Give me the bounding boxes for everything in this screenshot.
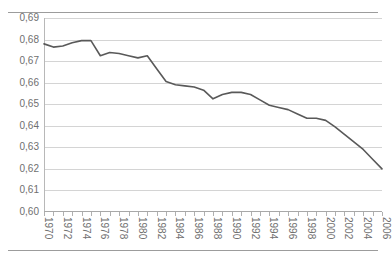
x-axis-tick [307, 212, 308, 216]
x-axis-tick-label: 1972 [62, 217, 72, 239]
x-axis-tick [222, 212, 223, 216]
y-axis-tick-label: 0,67 [20, 56, 39, 66]
x-axis-tick-label: 1978 [118, 217, 128, 239]
x-axis-tick [147, 212, 148, 216]
x-axis-tick [335, 212, 336, 216]
x-axis-tick [279, 212, 280, 216]
x-axis-tick-label: 1986 [193, 217, 203, 239]
x-axis-tick [129, 212, 130, 216]
x-axis-tick [185, 212, 186, 216]
line-chart: 0,690,680,670,660,650,640,630,620,610,60… [0, 18, 386, 248]
series-polyline [44, 41, 382, 169]
x-axis-tick [72, 212, 73, 216]
y-axis-labels: 0,690,680,670,660,650,640,630,620,610,60 [0, 18, 42, 212]
x-axis-tick-label: 1974 [81, 217, 91, 239]
x-axis-tick-label: 1984 [174, 217, 184, 239]
x-axis-tick [241, 212, 242, 216]
cropped-header-strip: ' ' ' ' ' ' ' ' ' [44, 0, 164, 8]
x-axis-tick-label: 1988 [212, 217, 222, 239]
x-axis-tick-label: 2002 [343, 217, 353, 239]
x-axis-tick [260, 212, 261, 216]
data-series-line [44, 18, 382, 212]
x-axis-tick [316, 212, 317, 216]
x-axis-tick [354, 212, 355, 216]
y-axis-tick-label: 0,69 [20, 13, 39, 23]
x-axis-tick [326, 212, 327, 216]
x-axis-tick-label: 1976 [99, 217, 109, 239]
x-axis-tick [194, 212, 195, 216]
x-axis-tick [344, 212, 345, 216]
x-axis-tick [119, 212, 120, 216]
x-axis-tick-label: 1992 [250, 217, 260, 239]
x-axis-tick [110, 212, 111, 216]
y-axis-tick-label: 0,61 [20, 185, 39, 195]
x-axis-tick [138, 212, 139, 216]
plot-area [44, 18, 382, 212]
x-axis-tick [288, 212, 289, 216]
x-axis-tick [269, 212, 270, 216]
x-axis-tick [382, 212, 383, 216]
x-axis-tick [251, 212, 252, 216]
x-axis-tick-label: 1994 [268, 217, 278, 239]
x-axis-tick [91, 212, 92, 216]
x-axis-tick-label: 2004 [362, 217, 372, 239]
x-axis-tick-label: 1990 [231, 217, 241, 239]
x-axis-tick [44, 212, 45, 216]
x-axis-labels: 1970197219741976197819801982198419861988… [44, 217, 382, 265]
x-axis-tick-label: 1980 [137, 217, 147, 239]
x-axis-tick [298, 212, 299, 216]
x-axis-tick-label: 1982 [156, 217, 166, 239]
x-axis-tick [363, 212, 364, 216]
y-axis-tick-label: 0,66 [20, 78, 39, 88]
x-axis-tick [166, 212, 167, 216]
x-axis-tick-label: 1996 [287, 217, 297, 239]
x-axis-tick [175, 212, 176, 216]
x-axis-tick [100, 212, 101, 216]
x-axis-tick-label: 1998 [306, 217, 316, 239]
top-divider-rule [8, 12, 378, 13]
x-axis-tick [213, 212, 214, 216]
x-axis-tick [63, 212, 64, 216]
x-axis-tick [157, 212, 158, 216]
x-axis-tick [53, 212, 54, 216]
x-axis-tick [232, 212, 233, 216]
x-axis-tick [82, 212, 83, 216]
x-axis-tick-label: 2000 [325, 217, 335, 239]
y-axis-tick-label: 0,68 [20, 35, 39, 45]
y-axis-tick-label: 0,60 [20, 207, 39, 217]
y-axis-tick-label: 0,64 [20, 121, 39, 131]
x-axis-tick-label: 1970 [43, 217, 53, 239]
x-axis-tick-label: 2006 [381, 217, 391, 239]
x-axis-tick [373, 212, 374, 216]
cropped-header-text: ' ' ' ' ' ' ' ' ' [44, 0, 147, 2]
x-axis-tick [204, 212, 205, 216]
y-axis-tick-label: 0,65 [20, 99, 39, 109]
y-axis-tick-label: 0,62 [20, 164, 39, 174]
y-axis-tick-label: 0,63 [20, 142, 39, 152]
